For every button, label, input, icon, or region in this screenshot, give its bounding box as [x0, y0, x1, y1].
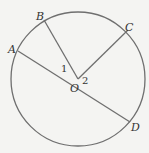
angle-1-label: 1: [61, 63, 67, 74]
label-d: D: [130, 121, 140, 134]
circle-diagram: B A C D O 1 2: [0, 0, 149, 153]
diagram-canvas: B A C D O 1 2: [0, 0, 149, 153]
angle-2-label: 2: [82, 75, 88, 86]
label-c: C: [125, 21, 134, 34]
label-b: B: [35, 10, 44, 23]
label-o: O: [70, 82, 79, 95]
label-a: A: [7, 43, 16, 56]
radius-oc: [78, 30, 128, 79]
